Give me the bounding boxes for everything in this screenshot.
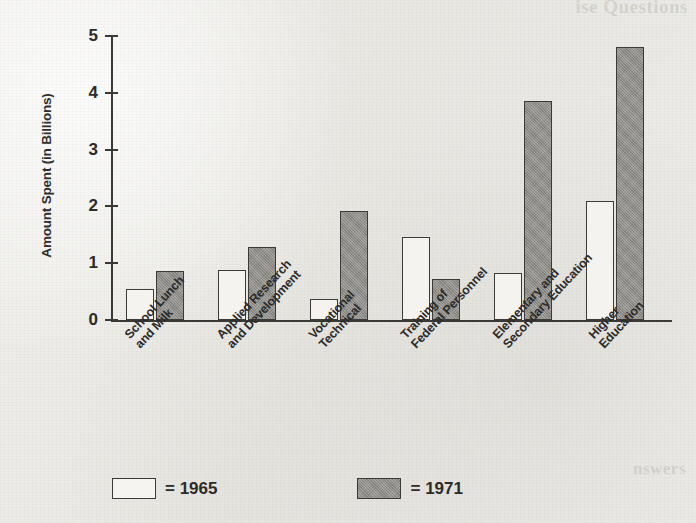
legend-swatch-1971 bbox=[357, 478, 401, 499]
bar-1971-6 bbox=[616, 47, 644, 320]
x-axis-line bbox=[111, 320, 672, 322]
y-axis-tick-label-0: 0 bbox=[70, 311, 98, 328]
chart-legend: = 1965= 1971 bbox=[112, 478, 463, 499]
scanned-page: ise Questions nswers Amount Spent (in Bi… bbox=[0, 0, 696, 523]
y-axis-tick-0 bbox=[105, 319, 118, 321]
bar-chart: Amount Spent (in Billions) 012345 School… bbox=[0, 0, 696, 523]
y-axis-tick-3 bbox=[105, 149, 118, 151]
y-axis-tick-1 bbox=[105, 262, 118, 264]
legend-item-1965: = 1965 bbox=[112, 478, 217, 499]
legend-label: = 1965 bbox=[165, 479, 217, 499]
y-axis-tick-label-3: 3 bbox=[70, 141, 98, 158]
y-axis-tick-2 bbox=[105, 205, 118, 207]
y-axis-tick-4 bbox=[105, 92, 118, 94]
legend-swatch-1965 bbox=[112, 478, 156, 499]
legend-item-1971: = 1971 bbox=[357, 478, 462, 499]
legend-label: = 1971 bbox=[410, 479, 462, 499]
y-axis-title: Amount Spent (in Billions) bbox=[39, 66, 54, 286]
y-axis-tick-label-4: 4 bbox=[70, 84, 98, 101]
y-axis-tick-label-5: 5 bbox=[70, 27, 98, 44]
y-axis-tick-label-1: 1 bbox=[70, 254, 98, 271]
y-axis-line bbox=[111, 36, 113, 322]
y-axis-tick-5 bbox=[105, 35, 118, 37]
y-axis-tick-label-2: 2 bbox=[70, 197, 98, 214]
